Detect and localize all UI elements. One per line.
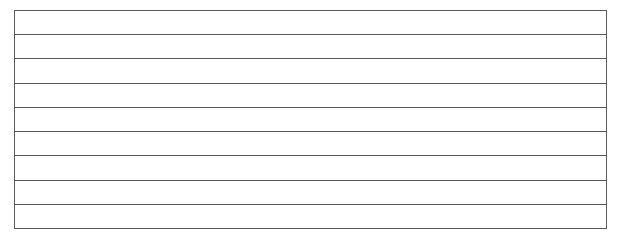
blank-row [15, 34, 606, 58]
blank-row [15, 107, 606, 131]
blank-row [15, 131, 606, 155]
blank-row [15, 11, 606, 34]
lined-writing-box [14, 10, 607, 229]
blank-row [15, 204, 606, 228]
blank-row [15, 180, 606, 204]
blank-row [15, 155, 606, 179]
blank-row [15, 83, 606, 107]
blank-row [15, 58, 606, 82]
